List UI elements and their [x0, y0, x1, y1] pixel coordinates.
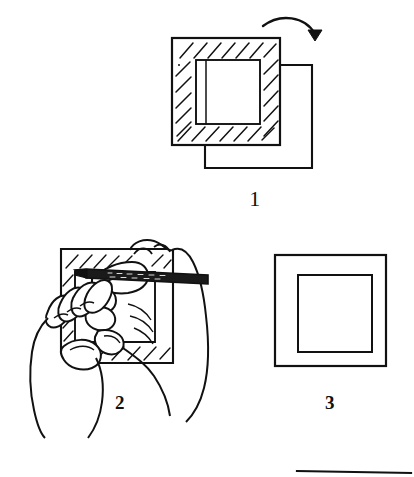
- step-two-caption: 2: [110, 392, 130, 414]
- step-one-illustration: [160, 8, 350, 188]
- figure-step-four-cropped: [295, 462, 414, 477]
- drawing-page: 1: [0, 0, 414, 477]
- step-three-illustration: [270, 250, 395, 375]
- step-one-caption: 1: [245, 186, 265, 212]
- figure-step-three: [270, 250, 395, 375]
- inner-window-rectangle: [298, 275, 372, 352]
- step-three-caption: 3: [320, 392, 340, 414]
- left-thumb: [61, 340, 101, 370]
- cropped-top-edge-line: [297, 471, 411, 473]
- step-four-illustration: [295, 462, 414, 477]
- fold-arrow-head: [308, 30, 322, 41]
- figure-step-one: [160, 8, 350, 188]
- fold-arrow-curve: [263, 18, 315, 34]
- left-hand-holding-board: [18, 280, 112, 438]
